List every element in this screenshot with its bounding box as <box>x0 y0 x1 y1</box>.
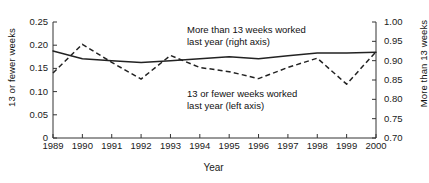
annotation-more-than-13-weeks: More than 13 weeks worked last year (rig… <box>187 24 306 47</box>
annotation-fewer-line1: 13 or fewer weeks worked <box>187 88 297 100</box>
series-line-13-or-fewer-weeks <box>53 44 376 84</box>
right-axis-ticks <box>372 22 376 138</box>
annotation-13-or-fewer-weeks: 13 or fewer weeks worked last year (left… <box>187 88 297 111</box>
annotation-more-line1: More than 13 weeks worked <box>187 24 306 36</box>
x-axis-ticks <box>53 134 376 138</box>
annotation-fewer-line2: last year (left axis) <box>187 100 297 112</box>
left-axis-ticks <box>53 22 57 138</box>
series-line-more-than-13-weeks <box>53 51 376 63</box>
annotation-more-line2: last year (right axis) <box>187 36 306 48</box>
